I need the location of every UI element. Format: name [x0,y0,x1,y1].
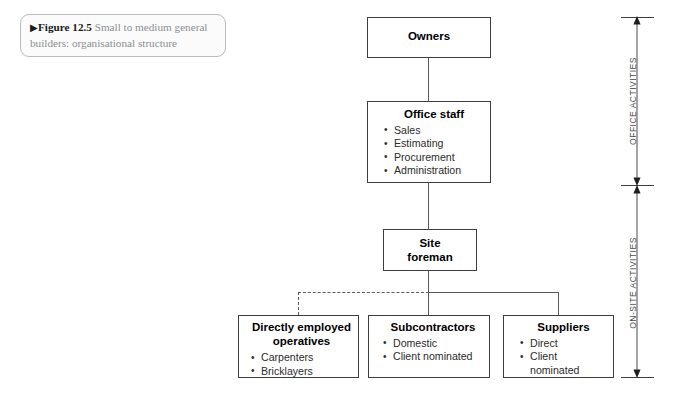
connector-owners-to-office-staff [428,58,429,101]
node-owners: Owners [367,17,491,58]
node-deo-title-line1: Directly employed [252,321,351,333]
scale-tick-top [621,17,654,18]
connector-dashed-bus-left [298,292,429,293]
list-item: Procurement [382,151,486,165]
connector-drop-to-suppliers [558,292,559,315]
figure-canvas: ▶Figure 12.5 Small to medium general bui… [0,0,679,393]
arrowhead-up-onsite [633,185,640,194]
figure-caption: ▶Figure 12.5 Small to medium general bui… [20,14,226,57]
node-subcontractors-title: Subcontractors [381,321,485,335]
list-item: Client nominated [381,350,485,364]
scale-tick-bottom [621,377,654,378]
connector-bus-right [428,292,559,293]
connector-site-foreman-to-subcontractors [428,271,429,315]
node-deo-title-line2: operatives [273,335,331,347]
node-suppliers-list: Direct Client nominated [518,337,609,378]
node-site-foreman-title-line1: Site [419,237,440,249]
node-site-foreman-title: Site foreman [384,237,476,264]
node-subcontractors-list: Domestic Client nominated [381,337,485,364]
node-office-staff-list: Sales Estimating Procurement Administrat… [382,124,486,178]
list-item: Administration [382,164,486,178]
list-item: Direct [518,337,609,351]
scale-label-office-activities: OFFICE ACTIVITIES [628,51,638,151]
node-office-staff-title: Office staff [382,108,486,122]
node-site-foreman-title-line2: foreman [407,251,452,263]
node-owners-title: Owners [368,30,490,44]
scale-label-on-site-activities: ON-SITE ACTIVITIES [628,233,638,333]
scale-tick-middle [621,185,654,186]
node-office-staff: Office staff Sales Estimating Procuremen… [367,101,491,183]
connector-office-staff-to-site-foreman [428,183,429,229]
list-item: Sales [382,124,486,138]
list-item: Bricklayers [249,365,354,379]
list-item: Estimating [382,137,486,151]
node-directly-employed-operatives-title: Directly employed operatives [249,321,354,348]
node-site-foreman: Site foreman [383,229,477,271]
caption-marker-icon: ▶ [30,22,38,33]
node-subcontractors: Subcontractors Domestic Client nominated [368,315,490,378]
node-suppliers-title: Suppliers [518,321,609,335]
list-item: Domestic [381,337,485,351]
node-directly-employed-operatives: Directly employed operatives Carpenters … [238,315,359,378]
list-item: Carpenters [249,351,354,365]
figure-number: Figure 12.5 [38,21,92,33]
list-item: Client nominated [518,350,609,377]
connector-dashed-drop-to-operatives [298,292,299,315]
node-suppliers: Suppliers Direct Client nominated [503,315,614,378]
node-directly-employed-operatives-list: Carpenters Bricklayers [249,351,354,378]
